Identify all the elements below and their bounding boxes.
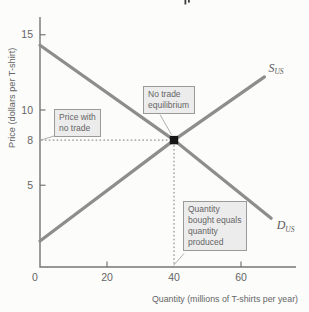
chart-canvas: 5810150204060SUSDUS — [0, 0, 309, 312]
no-trade-equilibrium-note: No trade equilibrium — [143, 86, 195, 114]
x-axis-title: Quantity (millions of T-shirts per year) — [152, 294, 298, 304]
y-tick-label: 15 — [21, 28, 33, 40]
equilibrium-point — [170, 136, 178, 144]
leader-line — [174, 254, 185, 266]
y-tick-label: 10 — [21, 104, 33, 116]
x-tick-label: 40 — [168, 271, 180, 283]
quantity-bought-equals-produced-note: Quantity bought equals quantity produced — [183, 201, 247, 251]
x-tick-label: 20 — [101, 271, 113, 283]
cut-off-text-artifact — [185, 0, 190, 5]
demand-curve-label: DUS — [276, 218, 295, 234]
supply-curve-label: SUS — [268, 61, 283, 77]
axis-lines — [40, 17, 296, 267]
leader-line — [41, 136, 54, 140]
x-tick-label: 60 — [235, 271, 247, 283]
y-tick-label: 8 — [27, 134, 33, 146]
y-axis-title: Price (dollars per T-shirt) — [7, 48, 17, 148]
x-tick-label: 0 — [32, 271, 38, 283]
y-tick-label: 5 — [27, 179, 33, 191]
price-with-no-trade-note: Price with no trade — [54, 109, 101, 137]
supply-demand-figure: 5810150204060SUSDUS Price with no trade … — [0, 0, 309, 312]
